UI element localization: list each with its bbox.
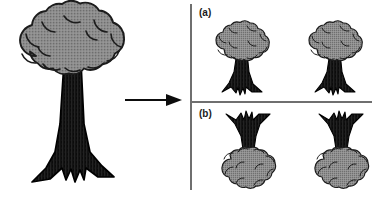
tree-a-2-canopy — [309, 21, 362, 61]
tree-b-2 — [306, 108, 376, 190]
panel-divider-horizontal — [190, 101, 372, 103]
tree-a-2 — [300, 22, 370, 98]
tree-a-1 — [207, 22, 277, 98]
transform-arrow — [124, 90, 186, 110]
source-tree — [2, 4, 142, 196]
tree-b-1 — [213, 108, 283, 190]
panel-label-a: (a) — [199, 7, 211, 18]
arrow-right-icon — [125, 94, 182, 106]
source-tree-trunk — [32, 62, 114, 182]
source-tree-canopy — [20, 1, 124, 74]
tree-b-1-canopy — [222, 147, 276, 188]
figure-canvas: (a) (b) — [0, 0, 380, 198]
tree-a-1-canopy — [216, 21, 269, 61]
panel-divider-vertical — [190, 4, 192, 190]
panel-label-b: (b) — [199, 108, 212, 119]
tree-b-2-canopy — [315, 147, 369, 188]
